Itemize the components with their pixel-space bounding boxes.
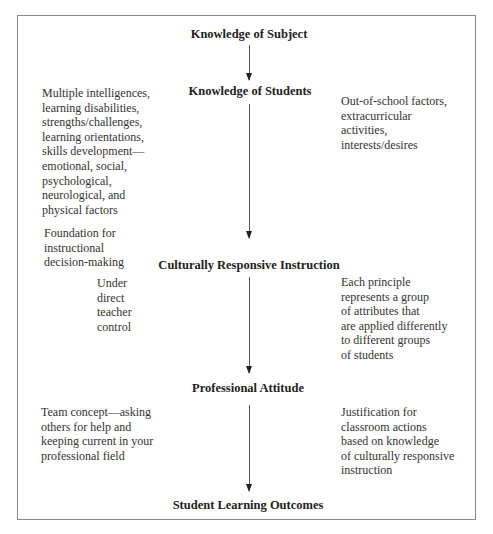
arrow-subject-to-students xyxy=(249,45,250,80)
note-line: Justification for xyxy=(341,405,454,420)
note-line: of attributes that xyxy=(341,304,447,319)
arrow-students-to-instruction xyxy=(249,104,250,238)
note-line: extracurricular xyxy=(341,109,447,124)
node-knowledge-of-students: Knowledge of Students xyxy=(189,84,312,99)
node-student-learning-outcomes: Student Learning Outcomes xyxy=(173,498,324,513)
note-instruction-right: Each principle represents a group of att… xyxy=(341,275,447,363)
note-line: teacher xyxy=(97,305,132,320)
node-professional-attitude: Professional Attitude xyxy=(192,381,304,396)
note-line: physical factors xyxy=(42,203,150,218)
note-line: others for help and xyxy=(41,420,153,435)
note-line: Multiple intelligences, xyxy=(42,86,150,101)
note-line: Foundation for xyxy=(44,226,124,241)
note-line: classroom actions xyxy=(341,420,454,435)
note-students-left: Multiple intelligences, learning disabil… xyxy=(42,86,150,217)
note-line: interests/desires xyxy=(341,138,447,153)
note-line: Team concept—asking xyxy=(41,405,153,420)
note-line: are applied differently xyxy=(341,319,447,334)
note-foundation: Foundation for instructional decision-ma… xyxy=(44,226,124,270)
note-line: activities, xyxy=(341,123,447,138)
node-culturally-responsive-instruction: Culturally Responsive Instruction xyxy=(158,258,339,273)
note-line: control xyxy=(97,320,132,335)
note-line: to different groups xyxy=(341,333,447,348)
note-line: represents a group xyxy=(341,290,447,305)
arrow-attitude-to-outcomes xyxy=(249,405,250,491)
note-line: strengths/challenges, xyxy=(42,115,150,130)
note-line: psychological, xyxy=(42,174,150,189)
note-line: instructional xyxy=(44,241,124,256)
note-line: neurological, and xyxy=(42,188,150,203)
note-line: Each principle xyxy=(341,275,447,290)
note-line: learning disabilities, xyxy=(42,101,150,116)
note-line: keeping current in your xyxy=(41,434,153,449)
note-line: decision-making xyxy=(44,255,124,270)
note-line: Out-of-school factors, xyxy=(341,94,447,109)
note-line: professional field xyxy=(41,449,153,464)
note-line: of culturally responsive xyxy=(341,449,454,464)
node-knowledge-of-subject: Knowledge of Subject xyxy=(191,27,308,42)
note-line: instruction xyxy=(341,463,454,478)
note-students-right: Out-of-school factors, extracurricular a… xyxy=(341,94,447,152)
note-line: based on knowledge xyxy=(341,434,454,449)
arrow-instruction-to-attitude xyxy=(249,277,250,373)
note-attitude-right: Justification for classroom actions base… xyxy=(341,405,454,478)
note-line: Under xyxy=(97,276,132,291)
note-line: skills development— xyxy=(42,144,150,159)
note-line: of students xyxy=(341,348,447,363)
note-attitude-left: Team concept—asking others for help and … xyxy=(41,405,153,463)
note-line: emotional, social, xyxy=(42,159,150,174)
note-line: learning orientations, xyxy=(42,130,150,145)
note-instruction-left: Under direct teacher control xyxy=(97,276,132,334)
note-line: direct xyxy=(97,291,132,306)
